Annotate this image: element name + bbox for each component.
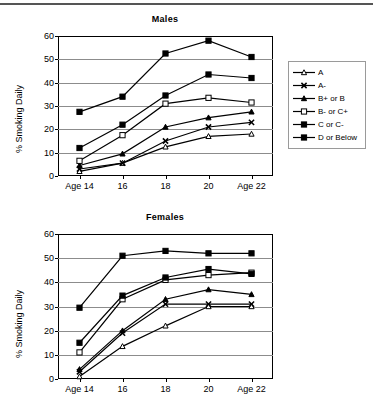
data-point-marker-open-triangle — [163, 144, 168, 149]
x-axis-tick-label: 20 — [203, 182, 213, 191]
data-point-marker-filled-square — [120, 253, 125, 258]
data-point-marker-open-square — [77, 350, 82, 355]
y-axis-tick-label: 20 — [28, 125, 54, 134]
y-axis-tick-label: 50 — [28, 254, 54, 263]
legend-item-a-[interactable]: A- — [292, 79, 360, 92]
data-point-marker-filled-square — [163, 93, 168, 98]
series-layer — [58, 36, 273, 176]
females-plot-area: 0102030405060Age 14161820Age 22 — [58, 234, 273, 379]
x-axis-tick-mark — [123, 379, 124, 382]
legend-item-label: D or Below — [318, 134, 357, 142]
legend-item-b-or-c-[interactable]: B- or C+ — [292, 105, 360, 118]
legend-item-label: A — [318, 69, 323, 77]
data-point-marker-filled-square — [77, 145, 82, 150]
series-line — [80, 307, 252, 377]
legend-item-b-or-b[interactable]: B+ or B — [292, 92, 360, 105]
data-point-marker-filled-triangle — [163, 297, 168, 302]
x-axis-tick-mark — [166, 379, 167, 382]
series-line — [80, 112, 252, 166]
data-point-marker-filled-square — [249, 54, 254, 59]
data-point-marker-filled-square — [206, 266, 211, 271]
legend-item-label: B+ or B — [318, 95, 345, 103]
x-axis-tick-label: Age 14 — [65, 182, 94, 191]
series-c-or-c- — [77, 72, 254, 151]
legend-item-a[interactable]: A — [292, 66, 360, 79]
data-point-marker-open-triangle — [120, 344, 125, 349]
y-axis-tick-label: 40 — [28, 278, 54, 287]
y-axis-tick-label: 30 — [28, 102, 54, 111]
chart-legend: AA-B+ or BB- or C+C or C-D or Below — [288, 61, 366, 149]
series-b-or-b — [77, 287, 254, 372]
y-axis-tick-label: 20 — [28, 326, 54, 335]
data-point-marker-open-square — [120, 133, 125, 138]
data-point-marker-filled-square — [249, 75, 254, 80]
data-point-marker-open-square — [206, 95, 211, 100]
y-axis-tick-mark — [55, 176, 58, 177]
y-axis-tick-label: 10 — [28, 350, 54, 359]
data-point-marker-filled-square — [206, 251, 211, 256]
x-axis-tick-label: 18 — [160, 385, 170, 394]
data-point-marker-filled-square — [120, 122, 125, 127]
legend-marker-open-square — [292, 106, 316, 117]
series-a — [77, 304, 254, 379]
males-chart-panel: Males % Smoking Daily 0102030405060Age 1… — [0, 8, 373, 208]
legend-item-label: A- — [318, 82, 326, 90]
y-axis-tick-label: 0 — [28, 172, 54, 181]
legend-item-c-or-c-[interactable]: C or C- — [292, 118, 360, 131]
legend-item-label: B- or C+ — [318, 108, 348, 116]
data-point-marker-filled-triangle — [249, 109, 254, 114]
x-axis-tick-mark — [209, 379, 210, 382]
x-axis-tick-mark — [80, 379, 81, 382]
data-point-marker-open-square — [301, 109, 306, 114]
legend-item-d-or-below[interactable]: D or Below — [292, 131, 360, 144]
data-point-marker-filled-square — [301, 135, 306, 140]
legend-marker-x-cross — [292, 80, 316, 91]
data-point-marker-filled-square — [120, 94, 125, 99]
series-a- — [77, 301, 254, 374]
series-line — [80, 75, 252, 149]
males-y-axis-label: % Smoking Daily — [14, 85, 24, 153]
x-axis-tick-mark — [252, 176, 253, 179]
data-point-marker-open-square — [206, 272, 211, 277]
females-y-axis-label: % Smoking Daily — [14, 290, 24, 358]
data-point-marker-open-square — [77, 158, 82, 163]
data-point-marker-filled-square — [163, 248, 168, 253]
legend-item-label: C or C- — [318, 121, 344, 129]
data-point-marker-filled-square — [206, 38, 211, 43]
data-point-marker-filled-square — [206, 72, 211, 77]
series-a — [77, 131, 254, 173]
x-axis-tick-mark — [166, 176, 167, 179]
y-axis-tick-label: 60 — [28, 230, 54, 239]
data-point-marker-filled-triangle — [249, 292, 254, 297]
data-point-marker-filled-square — [301, 122, 306, 127]
y-axis-tick-label: 50 — [28, 55, 54, 64]
x-axis-tick-label: Age 22 — [237, 385, 266, 394]
data-point-marker-filled-square — [249, 271, 254, 276]
data-point-marker-filled-triangle — [206, 115, 211, 120]
x-axis-tick-mark — [252, 379, 253, 382]
series-b-or-c- — [77, 270, 254, 355]
data-point-marker-filled-square — [77, 340, 82, 345]
y-axis-tick-mark — [55, 379, 58, 380]
data-point-marker-filled-square — [163, 275, 168, 280]
x-axis-tick-label: Age 14 — [65, 385, 94, 394]
x-axis-tick-mark — [123, 176, 124, 179]
data-point-marker-filled-square — [249, 251, 254, 256]
y-axis-tick-label: 60 — [28, 32, 54, 41]
data-point-marker-open-triangle — [163, 323, 168, 328]
series-line — [80, 273, 252, 353]
data-point-marker-open-triangle — [249, 131, 254, 136]
females-chart-panel: Females % Smoking Daily 0102030405060Age… — [0, 208, 373, 417]
data-point-marker-filled-square — [163, 51, 168, 56]
series-b-or-b — [77, 109, 254, 168]
legend-marker-filled-square — [292, 119, 316, 130]
x-axis-tick-label: 16 — [117, 182, 127, 191]
males-chart-title: Males — [50, 14, 280, 24]
data-point-marker-filled-square — [120, 293, 125, 298]
series-layer — [58, 234, 273, 379]
data-point-marker-filled-triangle — [120, 151, 125, 156]
data-point-marker-open-triangle — [301, 70, 306, 75]
x-axis-tick-label: 18 — [160, 182, 170, 191]
data-point-marker-open-triangle — [206, 134, 211, 139]
x-axis-tick-label: Age 22 — [237, 182, 266, 191]
